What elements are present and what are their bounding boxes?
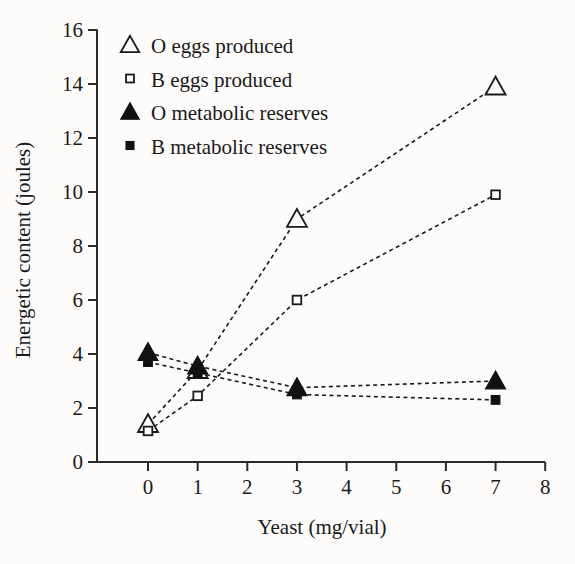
legend-marker-1: [121, 36, 139, 52]
series-markers: [138, 77, 506, 436]
x-axis: 012345678: [97, 462, 550, 499]
y-tick-label: 12: [62, 126, 83, 150]
data-point-s2-x1: [193, 392, 202, 401]
y-axis-tick-labels: 0246810121416: [62, 18, 84, 474]
y-axis: 0246810121416: [62, 18, 98, 474]
legend-marker-4: [126, 142, 134, 150]
y-axis-title: Energetic content (joules): [11, 142, 35, 359]
x-tick-label: 2: [242, 475, 253, 499]
energetic-content-line-chart: 0246810121416 012345678 Yeast (mg/vial) …: [0, 0, 575, 564]
x-tick-label: 3: [292, 475, 303, 499]
legend-label-2: B eggs produced: [151, 68, 293, 92]
chart-legend: O eggs producedB eggs producedO metaboli…: [121, 34, 328, 159]
data-point-s4-x7: [491, 396, 500, 405]
data-point-s1-x3: [287, 209, 307, 227]
x-tick-label: 0: [143, 475, 154, 499]
data-point-s3-x7: [486, 371, 506, 389]
data-point-s4-x1: [193, 369, 202, 378]
x-axis-ticks: [148, 462, 545, 471]
data-point-s4-x3: [293, 390, 302, 399]
y-tick-label: 6: [73, 288, 84, 312]
x-tick-label: 5: [391, 475, 402, 499]
legend-marker-3: [121, 103, 139, 119]
x-tick-label: 7: [490, 475, 501, 499]
y-tick-label: 0: [73, 450, 84, 474]
y-tick-label: 10: [62, 180, 83, 204]
legend-label-3: O metabolic reserves: [151, 101, 328, 125]
data-point-s2-x7: [491, 190, 500, 199]
data-point-s4-x0: [144, 358, 153, 367]
x-axis-title: Yeast (mg/vial): [257, 515, 386, 539]
y-tick-label: 2: [73, 396, 84, 420]
data-point-s1-x7: [486, 77, 506, 95]
chart-figure: 0246810121416 012345678 Yeast (mg/vial) …: [0, 0, 575, 564]
x-tick-label: 1: [192, 475, 203, 499]
data-point-s2-x3: [293, 296, 302, 305]
x-tick-label: 4: [341, 475, 352, 499]
legend-label-1: O eggs produced: [151, 34, 294, 58]
legend-marker-2: [126, 75, 134, 83]
y-tick-label: 14: [62, 72, 84, 96]
x-axis-tick-labels: 012345678: [143, 475, 551, 499]
y-tick-label: 16: [62, 18, 83, 42]
legend-label-4: B metabolic reserves: [151, 135, 327, 159]
x-tick-label: 8: [540, 475, 551, 499]
data-point-s2-x0: [144, 427, 153, 436]
y-tick-label: 8: [73, 234, 84, 258]
y-tick-label: 4: [73, 342, 84, 366]
x-tick-label: 6: [441, 475, 452, 499]
